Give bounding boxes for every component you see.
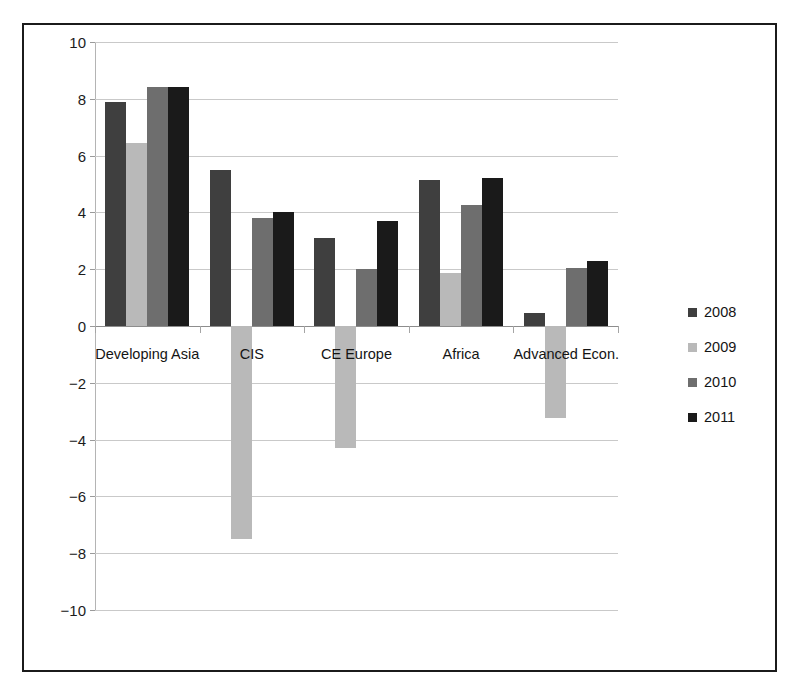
x-tick-mark [200,326,201,333]
bar-group [95,42,200,610]
bar-group [200,42,305,610]
bar-group [513,42,618,610]
gridline--10 [95,610,618,611]
legend-item-2010[interactable]: 2010 [688,365,768,400]
bar-group [304,42,409,610]
x-tick-mark [618,326,619,333]
legend-swatch-icon [688,413,697,422]
y-tick-label: −10 [61,603,86,618]
category-label-cis: CIS [200,347,305,362]
category-label-developing-asia: Developing Asia [95,347,200,362]
y-tick-label: 10 [69,35,86,50]
x-tick-mark [304,326,305,333]
legend-label: 2009 [704,340,736,355]
legend-label: 2011 [704,410,735,425]
bar-2010 [356,269,377,326]
legend-item-2009[interactable]: 2009 [688,330,768,365]
bar-2008 [210,170,231,326]
y-tick-label: 6 [78,148,86,163]
legend-item-2011[interactable]: 2011 [688,400,768,435]
y-tick-label: −2 [69,375,86,390]
y-tick-label: 8 [78,91,86,106]
legend-label: 2008 [704,305,736,320]
bar-2011 [482,178,503,326]
y-tick-label: −8 [69,546,86,561]
bar-2008 [105,102,126,326]
chart-legend: 2008200920102011 [688,295,768,435]
legend-label: 2010 [704,375,736,390]
bar-2011 [168,87,189,326]
y-tick-label: −4 [69,432,86,447]
bar-2010 [461,205,482,326]
bar-2009 [545,326,566,418]
x-tick-mark [409,326,410,333]
legend-swatch-icon [688,378,697,387]
legend-item-2008[interactable]: 2008 [688,295,768,330]
y-tick-label: 0 [78,319,86,334]
bar-2008 [419,180,440,326]
chart-frame: 1086420−2−4−6−8−10 Developing AsiaCISCE … [22,23,777,672]
bar-2011 [273,212,294,326]
plot-area: 1086420−2−4−6−8−10 Developing AsiaCISCE … [95,42,618,610]
bar-2008 [314,238,335,326]
legend-swatch-icon [688,343,697,352]
bar-2009 [440,273,461,326]
x-tick-mark [95,326,96,333]
category-label-advanced-econ: Advanced Econ. [513,347,618,362]
y-tick-mark [90,610,95,611]
x-tick-mark [513,326,514,333]
bar-group [409,42,514,610]
y-tick-label: 2 [78,262,86,277]
bar-2010 [147,87,168,326]
bar-2011 [587,261,608,326]
bar-2010 [566,268,587,326]
bar-2009 [126,143,147,326]
bar-2010 [252,218,273,326]
category-label-africa: Africa [409,347,514,362]
category-label-ce-europe: CE Europe [304,347,409,362]
y-tick-label: 4 [78,205,86,220]
legend-swatch-icon [688,308,697,317]
y-tick-label: −6 [69,489,86,504]
bar-2011 [377,221,398,326]
bar-2008 [524,313,545,326]
bar-2009 [335,326,356,448]
